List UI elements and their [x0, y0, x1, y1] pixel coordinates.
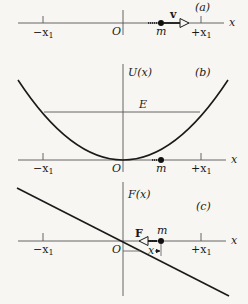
displacement-label: x — [148, 244, 155, 257]
panel-tag: (a) — [195, 1, 210, 14]
velocity-label: v — [169, 8, 177, 21]
neg-x1-label: −x1 — [33, 162, 54, 176]
panel-c: x F m F(x) (c) x O −x1 +x1 — [17, 182, 238, 296]
origin-label: O — [112, 162, 121, 175]
x-axis-label: x — [229, 16, 236, 29]
energy-label: E — [138, 98, 147, 111]
neg-x1-label: −x1 — [33, 26, 54, 40]
x-axis-label: x — [231, 153, 238, 166]
velocity-arrowhead-icon — [180, 19, 189, 28]
y-axis-label: F(x) — [127, 188, 150, 201]
neg-x1-label: −x1 — [33, 243, 54, 257]
mass-label: m — [156, 25, 166, 38]
pos-x1-label: +x1 — [191, 243, 212, 257]
oscillator-diagram: v (a) x O m −x1 +x1 U(x) (b) E x O m −x1… — [0, 0, 248, 304]
mass-label: m — [156, 162, 166, 175]
origin-label: O — [112, 25, 121, 38]
force-label: F — [135, 227, 143, 240]
mass-label: m — [157, 224, 167, 237]
panel-tag: (b) — [195, 66, 211, 79]
panel-b: U(x) (b) E x O m −x1 +x1 — [18, 64, 238, 176]
pos-x1-label: +x1 — [191, 26, 212, 40]
pos-x1-label: +x1 — [191, 162, 212, 176]
panel-tag: (c) — [196, 200, 211, 213]
panel-a: v (a) x O m −x1 +x1 — [18, 1, 236, 40]
y-axis-label: U(x) — [128, 66, 152, 79]
origin-label: O — [112, 243, 121, 256]
x-axis-label: x — [231, 234, 238, 247]
mass-dot — [158, 238, 164, 244]
